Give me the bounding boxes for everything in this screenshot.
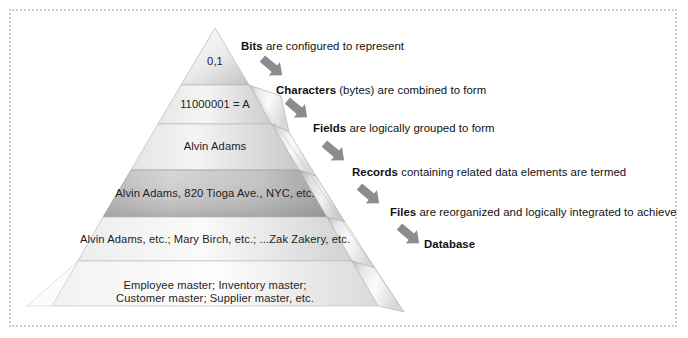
step-label-characters: Characters (bytes) are combined to form xyxy=(276,84,486,96)
step-label-database: Database xyxy=(424,238,475,250)
pyramid-label-records: Alvin Adams, 820 Tioga Ave., NYC, etc. xyxy=(95,187,335,200)
pyramid-label-bits: 0,1 xyxy=(185,55,245,68)
pyramid-label-database-line1: Employee master; Inventory master; xyxy=(80,279,350,292)
step-rest-bits: are configured to represent xyxy=(263,40,404,52)
pyramid-front-faces xyxy=(27,28,378,306)
step-label-fields: Fields are logically grouped to form xyxy=(313,122,495,134)
pyramid-label-files: Alvin Adams, etc.; Mary Birch, etc.; ...… xyxy=(60,233,370,246)
step-label-files: Files are reorganized and logically inte… xyxy=(390,206,677,218)
pyramid-label-database-line2: Customer master; Supplier master, etc. xyxy=(80,292,350,305)
step-rest-fields: are logically grouped to form xyxy=(346,122,494,134)
arrow-records-to-files xyxy=(354,180,385,210)
step-term-files: Files xyxy=(390,206,416,218)
step-term-bits: Bits xyxy=(241,40,263,52)
step-rest-characters: (bytes) are combined to form xyxy=(336,84,486,96)
step-term-characters: Characters xyxy=(276,84,336,96)
step-term-records: Records xyxy=(352,166,398,178)
step-label-bits: Bits are configured to represent xyxy=(241,40,404,52)
step-rest-records: containing related data elements are ter… xyxy=(398,166,626,178)
step-term-database: Database xyxy=(424,238,475,250)
arrow-fields-to-records xyxy=(319,137,350,167)
pyramid-label-characters: 11000001 = A xyxy=(150,98,280,111)
step-rest-files: are reorganized and logically integrated… xyxy=(416,206,676,218)
arrow-bits-to-characters xyxy=(257,52,288,82)
step-term-fields: Fields xyxy=(313,122,346,134)
figure-canvas: 0,1 11000001 = A Alvin Adams Alvin Adams… xyxy=(0,0,688,338)
step-label-records: Records containing related data elements… xyxy=(352,166,626,178)
arrow-files-to-database xyxy=(394,220,425,250)
pyramid-label-fields: Alvin Adams xyxy=(140,140,290,153)
